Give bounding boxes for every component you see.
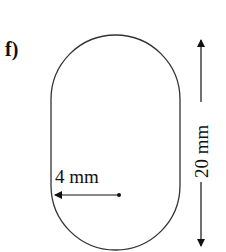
diagram-canvas: f) 4 mm 20 mm xyxy=(0,0,226,252)
height-label: 20 mm xyxy=(191,124,212,178)
radius-label: 4 mm xyxy=(55,166,99,187)
stadium-outline xyxy=(51,35,180,250)
panel-label: f) xyxy=(5,38,18,61)
center-dot xyxy=(117,193,121,197)
